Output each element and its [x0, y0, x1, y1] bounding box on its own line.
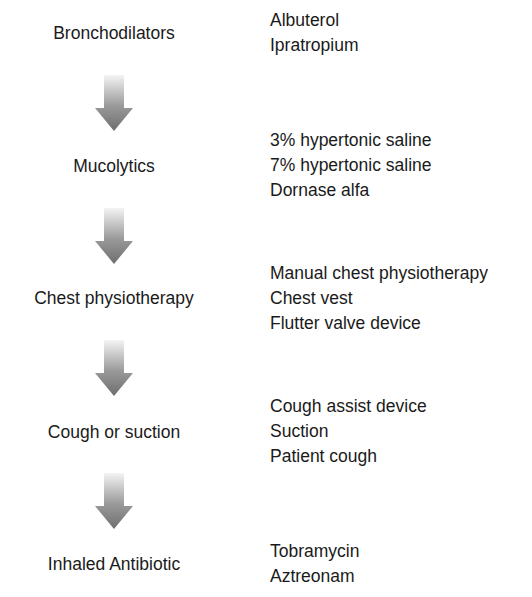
list-item: Dornase alfa: [270, 178, 431, 203]
step-items-mucolytics: 3% hypertonic saline 7% hypertonic salin…: [270, 128, 431, 203]
step-items-chest-physiotherapy: Manual chest physiotherapy Chest vest Fl…: [270, 261, 488, 336]
down-arrow-icon: [95, 75, 133, 131]
down-arrow-icon: [95, 208, 133, 264]
list-item: Aztreonam: [270, 564, 359, 589]
step-items-bronchodilators: Albuterol Ipratropium: [270, 8, 359, 58]
step-label-mucolytics: Mucolytics: [14, 156, 214, 176]
list-item: Suction: [270, 419, 427, 444]
list-item: 7% hypertonic saline: [270, 153, 431, 178]
step-items-inhaled-antibiotic: Tobramycin Aztreonam: [270, 539, 359, 589]
list-item: Patient cough: [270, 444, 427, 469]
step-label-cough-or-suction: Cough or suction: [14, 422, 214, 442]
step-label-bronchodilators: Bronchodilators: [14, 23, 214, 43]
list-item: Albuterol: [270, 8, 359, 33]
list-item: Tobramycin: [270, 539, 359, 564]
step-items-cough-or-suction: Cough assist device Suction Patient coug…: [270, 394, 427, 469]
list-item: Cough assist device: [270, 394, 427, 419]
step-label-chest-physiotherapy: Chest physiotherapy: [14, 288, 214, 308]
list-item: Flutter valve device: [270, 311, 488, 336]
list-item: 3% hypertonic saline: [270, 128, 431, 153]
list-item: Manual chest physiotherapy: [270, 261, 488, 286]
down-arrow-icon: [95, 473, 133, 529]
list-item: Chest vest: [270, 286, 488, 311]
down-arrow-icon: [95, 340, 133, 396]
step-label-inhaled-antibiotic: Inhaled Antibiotic: [14, 554, 214, 574]
list-item: Ipratropium: [270, 33, 359, 58]
